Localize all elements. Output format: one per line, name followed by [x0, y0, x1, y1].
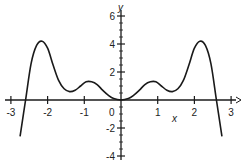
- y-tick-label: -4: [106, 151, 115, 162]
- y-tick-label: 4: [109, 39, 115, 50]
- y-tick-label: 2: [109, 67, 115, 78]
- x-tick-label: -3: [6, 107, 15, 118]
- x-tick-label: 1: [155, 107, 161, 118]
- ticks: [11, 16, 231, 156]
- x-tick-label: -2: [43, 107, 52, 118]
- x-axis-label: x: [171, 113, 178, 124]
- x-axis-arrow-icon: [236, 97, 241, 103]
- x-tick-label: -1: [80, 107, 89, 118]
- function-graph: -3-2-1123642-2-4 x y 0: [0, 0, 241, 165]
- y-tick-label: 6: [109, 11, 115, 22]
- origin-label: 0: [109, 107, 115, 118]
- x-tick-label: 3: [228, 107, 234, 118]
- axes: [5, 10, 241, 160]
- y-tick-label: -2: [106, 123, 115, 134]
- x-tick-label: 2: [192, 107, 198, 118]
- y-axis-label: y: [117, 2, 124, 13]
